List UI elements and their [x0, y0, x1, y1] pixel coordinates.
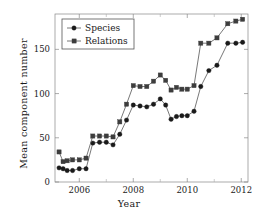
data-point-marker: [65, 159, 69, 163]
y-axis-label: Mean component number: [18, 34, 29, 174]
data-point-marker: [207, 68, 211, 72]
line-chart-canvas: 050100150 2006200820102012 SpeciesRelati…: [0, 0, 258, 218]
data-point-marker: [131, 103, 135, 107]
data-point-marker: [164, 78, 168, 82]
legend-marker-relations: [72, 39, 76, 43]
legend-marker-species: [72, 26, 76, 30]
x-axis-label: Year: [0, 198, 258, 209]
data-point-marker: [138, 84, 142, 88]
chart-figure: 050100150 2006200820102012 SpeciesRelati…: [0, 0, 258, 218]
y-tick-label: 100: [34, 89, 50, 99]
data-point-marker: [234, 41, 238, 45]
y-tick-label: 150: [34, 44, 50, 54]
data-point-marker: [70, 168, 74, 172]
data-point-marker: [104, 140, 108, 144]
chart-legend: SpeciesRelations: [62, 19, 134, 49]
data-point-marker: [192, 109, 196, 113]
data-point-marker: [145, 84, 149, 88]
data-point-marker: [61, 167, 65, 171]
data-point-marker: [241, 17, 245, 21]
data-point-marker: [226, 41, 230, 45]
y-tick-label: 50: [39, 133, 50, 143]
legend-label-relations: Relations: [85, 36, 128, 46]
data-point-marker: [145, 105, 149, 109]
data-point-marker: [111, 143, 115, 147]
data-point-marker: [199, 84, 203, 88]
data-point-marker: [163, 103, 167, 107]
data-point-marker: [57, 166, 61, 170]
data-point-marker: [77, 158, 81, 162]
data-point-marker: [207, 41, 211, 45]
data-point-marker: [91, 134, 95, 138]
data-point-marker: [84, 156, 88, 160]
data-point-marker: [169, 117, 173, 121]
x-tick-label: 2012: [230, 185, 252, 195]
data-point-marker: [118, 132, 122, 136]
data-point-marker: [180, 113, 184, 117]
data-point-marker: [180, 87, 184, 91]
data-point-marker: [111, 135, 115, 139]
data-point-marker: [226, 22, 230, 26]
data-point-marker: [70, 158, 74, 162]
data-point-marker: [77, 167, 81, 171]
data-point-marker: [174, 114, 178, 118]
data-point-marker: [151, 102, 155, 106]
data-point-marker: [240, 40, 244, 44]
data-point-marker: [84, 167, 88, 171]
data-point-marker: [118, 120, 122, 124]
legend-label-species: Species: [85, 23, 120, 33]
data-point-marker: [215, 63, 219, 67]
data-point-marker: [185, 113, 189, 117]
data-point-marker: [151, 79, 155, 83]
x-tick-label: 2010: [176, 185, 198, 195]
y-tick-label: 0: [45, 177, 50, 187]
data-point-marker: [138, 104, 142, 108]
data-point-marker: [215, 36, 219, 40]
data-point-marker: [158, 97, 162, 101]
data-point-marker: [158, 73, 162, 77]
data-point-marker: [131, 84, 135, 88]
x-tick-label: 2008: [122, 185, 144, 195]
data-point-marker: [234, 19, 238, 23]
data-point-marker: [61, 160, 65, 164]
data-point-marker: [104, 134, 108, 138]
data-point-marker: [169, 88, 173, 92]
data-point-marker: [97, 140, 101, 144]
x-tick-label: 2006: [68, 185, 90, 195]
data-point-marker: [97, 134, 101, 138]
data-point-marker: [65, 168, 69, 172]
data-point-marker: [174, 85, 178, 89]
data-point-marker: [124, 102, 128, 106]
data-point-marker: [124, 118, 128, 122]
data-point-marker: [185, 87, 189, 91]
data-point-marker: [57, 150, 61, 154]
data-point-marker: [192, 84, 196, 88]
data-point-marker: [199, 41, 203, 45]
